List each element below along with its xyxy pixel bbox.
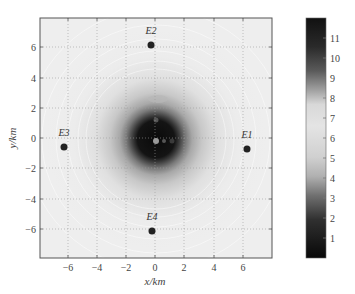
station-e1-marker — [244, 146, 251, 153]
x-tick-label: 2 — [182, 262, 187, 273]
y-tick-label: −2 — [25, 163, 36, 174]
station-e4-marker — [149, 228, 156, 235]
station-e2-label: E2 — [144, 25, 156, 36]
x-tick-label: −2 — [121, 262, 132, 273]
colorbar: 11 10 9 8 7 6 5 4 3 2 1 — [306, 18, 340, 258]
colorbar-tick: 6 — [330, 133, 335, 144]
x-tick-label: −4 — [92, 262, 103, 273]
y-tick-label: 6 — [31, 42, 36, 53]
y-tick-label: 4 — [31, 73, 36, 84]
colorbar-tick: 11 — [330, 33, 340, 44]
x-tick-label: 4 — [212, 262, 217, 273]
x-tick-label: −6 — [63, 262, 74, 273]
station-e2-marker — [148, 42, 155, 49]
station-e3-marker — [61, 144, 68, 151]
station-e3-label: E3 — [57, 127, 69, 138]
station-e4-label: E4 — [145, 211, 157, 222]
y-axis-label: y/km — [6, 128, 18, 150]
colorbar-tick: 4 — [330, 173, 335, 184]
x-tick-label: 0 — [153, 262, 158, 273]
x-tick-label: 6 — [241, 262, 246, 273]
colorbar-tick: 3 — [330, 193, 335, 204]
y-tick-label: 2 — [31, 103, 36, 114]
colorbar-tick: 1 — [330, 233, 335, 244]
colorbar-tick: 2 — [330, 213, 335, 224]
colorbar-tick: 5 — [330, 153, 335, 164]
colorbar-tick: 10 — [330, 53, 340, 64]
station-e1-label: E1 — [240, 129, 252, 140]
colorbar-tick: 8 — [330, 93, 335, 104]
colorbar-tick: 9 — [330, 73, 335, 84]
y-tick-label: 0 — [31, 133, 36, 144]
x-axis-label: x/km — [144, 275, 166, 287]
y-tick-label: −4 — [25, 194, 36, 205]
y-tick-label: −6 — [25, 224, 36, 235]
chart: E1 E2 E3 E4 −6 −4 −2 0 2 4 6 x/km — [0, 0, 355, 294]
colorbar-tick: 7 — [330, 113, 335, 124]
